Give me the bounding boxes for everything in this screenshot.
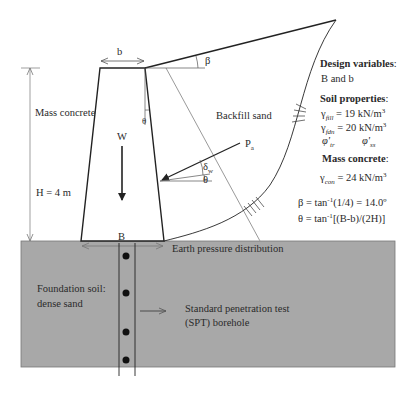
B-label: B xyxy=(118,232,125,243)
weight-label: W xyxy=(117,132,127,143)
mass-concrete-label: Mass concrete xyxy=(35,108,95,119)
spt-test-point xyxy=(123,253,130,260)
earth-pressure-label: Earth pressure distribution xyxy=(172,244,283,255)
backfill-slope-line xyxy=(145,20,336,68)
spt-label-2: (SPT) borehole xyxy=(185,318,249,329)
foundation-soil-label-2: dense sand xyxy=(37,299,83,310)
theta-label: θ xyxy=(203,175,208,186)
beta-label: β xyxy=(205,56,210,67)
foundation-soil-label: Foundation soil: xyxy=(37,284,106,295)
beta-equation: β = tan-1(1/4) = 14.0º xyxy=(298,198,386,209)
spt-test-point xyxy=(123,329,130,336)
wall-theta-label: θ xyxy=(142,117,146,126)
mass-concrete-title: Mass concrete: xyxy=(322,154,389,165)
spt-test-point xyxy=(123,357,130,364)
spt-test-point xyxy=(123,290,130,297)
gamma-fdn: γfdn = 20 kN/m3 xyxy=(321,123,386,134)
backfill-sand-label: Backfill sand xyxy=(216,111,272,122)
beta-angle-arc xyxy=(196,56,198,68)
active-thrust-label: Pa xyxy=(245,139,254,150)
gamma-con: γcon = 24 kN/m3 xyxy=(320,173,386,184)
theta-equation: θ = tan-1[(B-b)/(2H)] xyxy=(298,214,385,225)
gamma-fill: γfill = 19 kN/m3 xyxy=(321,109,385,120)
failure-plane-line xyxy=(166,68,260,241)
height-label: H = 4 m xyxy=(36,188,71,199)
design-variables-value: B and b xyxy=(321,74,354,85)
spt-label: Standard penetration test xyxy=(185,304,289,315)
b-label: b xyxy=(117,47,122,58)
design-variables-title: Design variables: xyxy=(320,59,397,70)
delta-w-label: δw xyxy=(203,162,213,173)
phi-ss: φ'ss xyxy=(362,136,376,147)
phi-tr: φ'tr xyxy=(322,136,335,147)
soil-properties-title: Soil properties: xyxy=(320,94,388,105)
active-thrust-arrow xyxy=(162,143,240,180)
